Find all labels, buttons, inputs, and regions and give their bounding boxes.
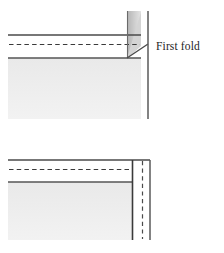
panel-second-fold: Second fold bbox=[0, 126, 224, 253]
second-fold-hem-band bbox=[8, 160, 132, 182]
first-fold-hem-band bbox=[8, 35, 141, 58]
second-fold-illustration bbox=[0, 126, 224, 253]
first-fold-illustration bbox=[0, 0, 224, 126]
panel-first-fold: First fold bbox=[0, 0, 224, 126]
fold-diagram-figure: First fold bbox=[0, 0, 224, 253]
first-fold-label: First fold bbox=[156, 40, 200, 53]
second-fold-fabric-body bbox=[8, 182, 132, 240]
first-fold-fabric-body bbox=[8, 58, 141, 119]
